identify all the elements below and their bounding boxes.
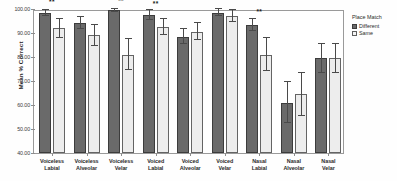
bar-group: VoicelessVelar** bbox=[103, 11, 138, 153]
y-tick-mark bbox=[31, 9, 35, 10]
y-tick-label: 90.00 bbox=[17, 30, 30, 36]
y-tick-label: 40.00 bbox=[17, 150, 30, 156]
error-bar-cap bbox=[77, 28, 84, 29]
error-bar-cap bbox=[146, 19, 153, 20]
significance-marker: ** bbox=[256, 8, 262, 15]
error-bar bbox=[321, 44, 322, 73]
error-bar-cap bbox=[180, 28, 187, 29]
bar-group: VoicelessAlveolar bbox=[69, 11, 104, 153]
bar-different bbox=[74, 23, 86, 153]
bar-same bbox=[226, 16, 238, 153]
bar-group: VoicedLabial** bbox=[138, 11, 173, 153]
error-bar bbox=[128, 39, 129, 70]
x-tick-mark bbox=[225, 153, 226, 156]
error-bar-cap bbox=[229, 9, 236, 10]
bar-different bbox=[143, 15, 155, 153]
y-tick-mark bbox=[31, 153, 35, 154]
bar-group: VoicedAlveolar bbox=[172, 11, 207, 153]
legend-swatch-different bbox=[352, 24, 357, 29]
significance-marker: ** bbox=[153, 0, 159, 7]
error-bar-cap bbox=[284, 81, 291, 82]
bar-same bbox=[157, 27, 169, 153]
error-bar-cap bbox=[194, 22, 201, 23]
error-bar-cap bbox=[215, 15, 222, 16]
bar-different bbox=[39, 13, 51, 153]
error-bar-cap bbox=[249, 18, 256, 19]
error-bar bbox=[59, 19, 60, 38]
bar-same bbox=[53, 28, 65, 153]
legend: Place Match DifferentSame bbox=[352, 14, 382, 37]
error-bar-cap bbox=[56, 37, 63, 38]
y-tick-label: 100.00 bbox=[14, 6, 30, 12]
error-bar bbox=[266, 38, 267, 72]
error-bar-cap bbox=[91, 24, 98, 25]
error-bar-cap bbox=[215, 8, 222, 9]
x-tick-mark bbox=[294, 153, 295, 156]
error-bar-cap bbox=[125, 69, 132, 70]
legend-label: Different bbox=[359, 23, 379, 29]
bars-layer: VoicelessLabial**VoicelessAlveolarVoicel… bbox=[34, 11, 343, 153]
x-tick-mark bbox=[87, 153, 88, 156]
error-bar-cap bbox=[298, 115, 305, 116]
x-tick-mark bbox=[328, 153, 329, 156]
error-bar bbox=[335, 44, 336, 73]
error-bar-cap bbox=[91, 45, 98, 46]
error-bar-cap bbox=[318, 72, 325, 73]
bar-different bbox=[177, 37, 189, 153]
y-tick-label: 70.00 bbox=[17, 78, 30, 84]
x-axis-label: NasalVelar bbox=[307, 158, 349, 172]
y-tick-label: 50.00 bbox=[17, 126, 30, 132]
legend-swatch-same bbox=[352, 31, 357, 36]
x-tick-mark bbox=[259, 153, 260, 156]
y-tick-label: 60.00 bbox=[17, 102, 30, 108]
bar-same bbox=[191, 32, 203, 153]
error-bar-cap bbox=[249, 30, 256, 31]
bar-different bbox=[108, 10, 120, 153]
error-bar-cap bbox=[229, 21, 236, 22]
error-bar-cap bbox=[111, 11, 118, 12]
error-bar-cap bbox=[125, 38, 132, 39]
bar-group: VoicedVelar bbox=[207, 11, 242, 153]
error-bar bbox=[197, 23, 198, 40]
error-bar bbox=[94, 25, 95, 47]
error-bar-cap bbox=[160, 18, 167, 19]
x-tick-mark bbox=[190, 153, 191, 156]
error-bar-cap bbox=[318, 43, 325, 44]
error-bar-cap bbox=[263, 70, 270, 71]
error-bar-cap bbox=[263, 37, 270, 38]
error-bar-cap bbox=[160, 34, 167, 35]
error-bar-cap bbox=[298, 72, 305, 73]
error-bar bbox=[163, 19, 164, 36]
bar-group: NasalAlveolar bbox=[276, 11, 311, 153]
significance-marker: ** bbox=[118, 0, 124, 4]
plot-area: 100.0090.0080.0070.0060.0050.0040.00 Voi… bbox=[33, 10, 344, 154]
error-bar-cap bbox=[180, 43, 187, 44]
y-tick-label: 80.00 bbox=[17, 54, 30, 60]
legend-label: Same bbox=[359, 30, 373, 36]
significance-marker: ** bbox=[49, 0, 55, 5]
x-tick-mark bbox=[121, 153, 122, 156]
error-bar-cap bbox=[146, 9, 153, 10]
error-bar bbox=[287, 82, 288, 123]
bar-group: NasalVelar bbox=[310, 11, 345, 153]
error-bar-cap bbox=[77, 16, 84, 17]
error-bar-cap bbox=[284, 122, 291, 123]
error-bar-cap bbox=[42, 15, 49, 16]
legend-title: Place Match bbox=[352, 14, 382, 20]
legend-item[interactable]: Different bbox=[352, 23, 382, 29]
error-bar bbox=[183, 29, 184, 43]
bar-chart-figure: Mean % Correct 100.0090.0080.0070.0060.0… bbox=[0, 0, 397, 181]
error-bar-cap bbox=[42, 9, 49, 10]
error-bar bbox=[301, 73, 302, 116]
legend-item[interactable]: Same bbox=[352, 30, 382, 36]
error-bar-cap bbox=[194, 39, 201, 40]
x-tick-mark bbox=[156, 153, 157, 156]
legend-items: DifferentSame bbox=[352, 23, 382, 36]
error-bar-cap bbox=[111, 8, 118, 9]
bar-different bbox=[246, 25, 258, 153]
bar-group: NasalLabial** bbox=[241, 11, 276, 153]
bar-group: VoicelessLabial** bbox=[34, 11, 69, 153]
x-tick-mark bbox=[52, 153, 53, 156]
bar-different bbox=[212, 13, 224, 153]
error-bar-cap bbox=[56, 18, 63, 19]
